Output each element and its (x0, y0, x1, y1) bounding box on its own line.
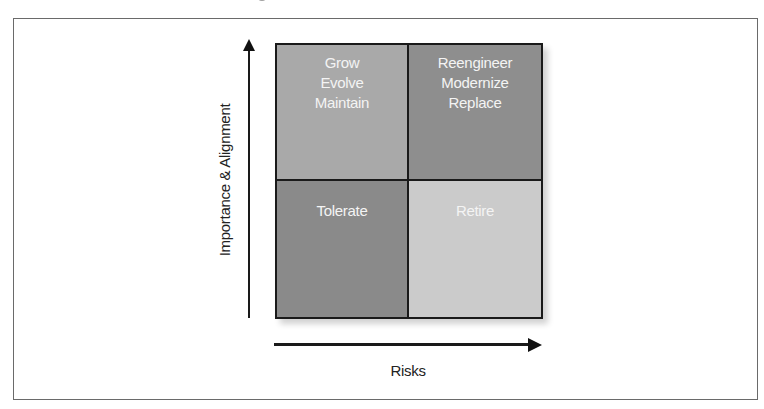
x-axis-label: Risks (390, 362, 425, 379)
y-axis-label: Importance & Alignment (216, 104, 233, 257)
quadrant-label: Reengineer (409, 53, 541, 73)
arrow-up-icon (243, 39, 255, 51)
y-axis-line (248, 44, 250, 318)
quadrant-matrix: Grow Evolve Maintain Reengineer Moderniz… (275, 43, 543, 319)
quadrant-bottom-left: Tolerate (277, 181, 409, 317)
quadrant-label: Replace (409, 93, 541, 113)
quadrant-label: Maintain (277, 93, 407, 113)
cropped-text-fragment (258, 0, 266, 1)
quadrant-label: Modernize (409, 73, 541, 93)
quadrant-label: Grow (277, 53, 407, 73)
quadrant-bottom-right: Retire (409, 181, 541, 317)
quadrant-top-left: Grow Evolve Maintain (277, 45, 409, 181)
x-axis-line (274, 343, 530, 346)
quadrant-label: Retire (409, 201, 541, 221)
quadrant-top-right: Reengineer Modernize Replace (409, 45, 541, 181)
quadrant-label: Evolve (277, 73, 407, 93)
quadrant-label: Tolerate (277, 201, 407, 221)
arrow-right-icon (528, 338, 542, 352)
